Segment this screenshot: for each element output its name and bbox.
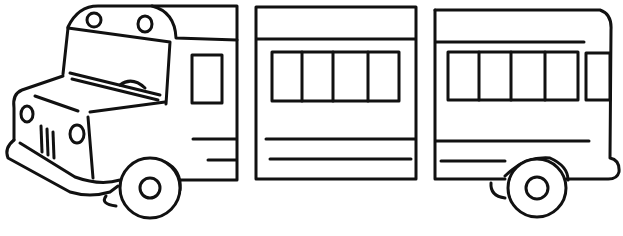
wheel-icon (505, 158, 568, 217)
roof-light-icon (87, 13, 101, 27)
rear-window (586, 53, 610, 100)
roof-light-icon (138, 16, 152, 32)
window-row (448, 52, 578, 100)
rear-section (435, 10, 619, 217)
bus-drawing (0, 0, 623, 236)
headlight-icon (70, 125, 84, 143)
wheel-icon (120, 158, 180, 218)
side-window (192, 55, 222, 103)
middle-section (256, 7, 416, 179)
window-row (272, 52, 399, 101)
front-section (7, 6, 237, 218)
headlight-icon (21, 106, 33, 122)
